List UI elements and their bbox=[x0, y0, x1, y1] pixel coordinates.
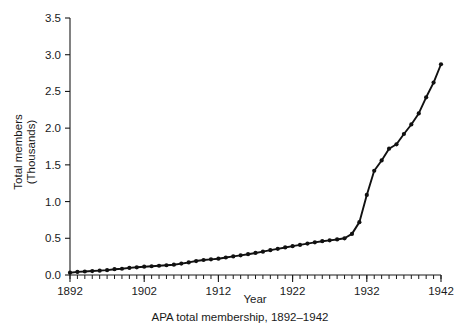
x-tick-label: 1922 bbox=[280, 285, 306, 297]
data-point bbox=[142, 265, 146, 269]
data-point bbox=[187, 260, 191, 264]
data-point bbox=[320, 239, 324, 243]
data-point bbox=[150, 264, 154, 268]
x-tick-label: 1892 bbox=[57, 285, 83, 297]
chart-figure: 0.00.51.01.52.02.53.03.5 189219021912192… bbox=[0, 0, 459, 330]
data-point bbox=[268, 248, 272, 252]
data-point bbox=[328, 238, 332, 242]
data-point bbox=[105, 268, 109, 272]
data-point bbox=[157, 264, 161, 268]
y-axis-label-line-1: Total members bbox=[12, 114, 24, 190]
y-axis-tick-marks bbox=[65, 18, 70, 275]
data-point bbox=[194, 259, 198, 263]
data-point bbox=[120, 267, 124, 271]
y-tick-label: 3.0 bbox=[45, 49, 61, 61]
data-point bbox=[439, 62, 443, 66]
data-point bbox=[112, 267, 116, 271]
data-point bbox=[424, 95, 428, 99]
data-point bbox=[365, 193, 369, 197]
x-tick-label: 1912 bbox=[206, 285, 232, 297]
data-point bbox=[179, 262, 183, 266]
membership-series-markers bbox=[68, 62, 443, 275]
data-point bbox=[172, 263, 176, 267]
data-point bbox=[261, 250, 265, 254]
data-point bbox=[350, 232, 354, 236]
data-point bbox=[342, 236, 346, 240]
data-point bbox=[357, 220, 361, 224]
data-point bbox=[417, 111, 421, 115]
data-point bbox=[209, 257, 213, 261]
y-tick-label: 2.0 bbox=[45, 122, 61, 134]
data-point bbox=[313, 240, 317, 244]
data-point bbox=[387, 147, 391, 151]
data-point bbox=[135, 265, 139, 269]
y-tick-label: 1.5 bbox=[45, 159, 61, 171]
y-tick-label: 0.5 bbox=[45, 232, 61, 244]
data-point bbox=[394, 142, 398, 146]
y-axis-label-line-2: (Thousands) bbox=[25, 120, 37, 185]
data-point bbox=[276, 247, 280, 251]
data-point bbox=[380, 158, 384, 162]
data-point bbox=[335, 237, 339, 241]
x-tick-label: 1902 bbox=[131, 285, 157, 297]
y-tick-label: 1.0 bbox=[45, 196, 61, 208]
data-point bbox=[90, 269, 94, 273]
data-point bbox=[402, 132, 406, 136]
data-point bbox=[164, 263, 168, 267]
data-point bbox=[68, 271, 72, 275]
x-tick-label: 1942 bbox=[428, 285, 454, 297]
y-axis-tick-labels: 0.00.51.01.52.02.53.03.5 bbox=[45, 12, 61, 281]
data-point bbox=[298, 243, 302, 247]
data-point bbox=[246, 252, 250, 256]
data-point bbox=[431, 81, 435, 85]
data-point bbox=[372, 169, 376, 173]
y-tick-label: 3.5 bbox=[45, 12, 61, 24]
data-point bbox=[291, 244, 295, 248]
data-point bbox=[98, 269, 102, 273]
data-point bbox=[283, 245, 287, 249]
y-tick-label: 2.5 bbox=[45, 85, 61, 97]
data-point bbox=[253, 251, 257, 255]
x-axis-label: Year bbox=[243, 293, 266, 305]
chart-caption: APA total membership, 1892–1942 bbox=[152, 311, 329, 323]
data-point bbox=[216, 257, 220, 261]
data-point bbox=[409, 122, 413, 126]
membership-series-line bbox=[70, 64, 441, 272]
data-point bbox=[75, 270, 79, 274]
y-tick-label: 0.0 bbox=[45, 269, 61, 281]
data-point bbox=[127, 266, 131, 270]
x-axis-minor-tick-marks bbox=[70, 275, 441, 279]
data-point bbox=[305, 241, 309, 245]
apa-membership-line-chart: 0.00.51.01.52.02.53.03.5 189219021912192… bbox=[0, 0, 459, 330]
x-tick-label: 1932 bbox=[354, 285, 380, 297]
data-point bbox=[239, 253, 243, 257]
data-point bbox=[224, 255, 228, 259]
data-point bbox=[83, 269, 87, 273]
data-point bbox=[201, 258, 205, 262]
data-point bbox=[231, 254, 235, 258]
